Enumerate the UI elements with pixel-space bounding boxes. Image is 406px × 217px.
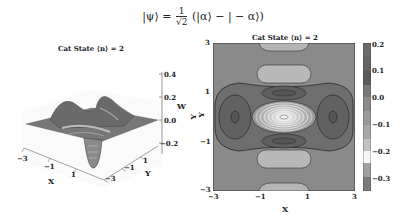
x-tick: −3: [208, 192, 219, 201]
colorbar-tick: −0.1: [372, 120, 390, 129]
z-axis-label: W: [177, 101, 186, 111]
colorbar-tick: 0.2: [372, 40, 384, 49]
y-axis-label: Y: [145, 168, 151, 178]
y-tick: −1: [124, 163, 135, 172]
x-tick: −1: [255, 192, 266, 201]
equation: |ψ⟩ = 1 √2 (|α⟩ − | − α⟩): [0, 6, 406, 27]
z-tick: 0.0: [164, 116, 176, 125]
equation-numerator: 1: [176, 6, 187, 17]
colorbar-tick: −0.3: [372, 174, 390, 183]
equation-fraction: 1 √2: [176, 6, 187, 27]
x-tick: −1: [44, 162, 55, 171]
y-tick: −1: [200, 137, 211, 146]
x-axis-label: X: [282, 204, 288, 214]
equation-lhs: |ψ⟩ =: [142, 10, 171, 23]
x-tick: 1: [305, 192, 310, 201]
z-tick: 0.2: [164, 93, 176, 102]
y-tick: 3: [205, 38, 210, 47]
y-axis-label: Y: [196, 112, 206, 118]
y-tick: 1: [205, 87, 210, 96]
x-axis-label: X: [48, 176, 54, 186]
z-tick: 0.4: [164, 70, 176, 79]
colorbar-tick: 0.1: [372, 66, 384, 75]
equation-rhs: (|α⟩ − | − α⟩): [192, 10, 264, 23]
x-tick: 1: [71, 170, 76, 179]
colorbar: [363, 43, 371, 191]
x-tick: −3: [17, 154, 28, 163]
colorbar-tick: −0.2: [372, 147, 390, 156]
x-tick: 3: [352, 192, 357, 201]
y-tick: 1: [143, 156, 148, 165]
contour-plot-title: Cat State ⟨n⟩ = 2: [252, 33, 318, 42]
colorbar-tick: 0.0: [372, 93, 384, 102]
equation-denominator: √2: [176, 17, 187, 27]
z-tick: −0.2: [160, 139, 178, 148]
contour-plot: [213, 43, 355, 191]
y-tick: −3: [105, 174, 116, 183]
